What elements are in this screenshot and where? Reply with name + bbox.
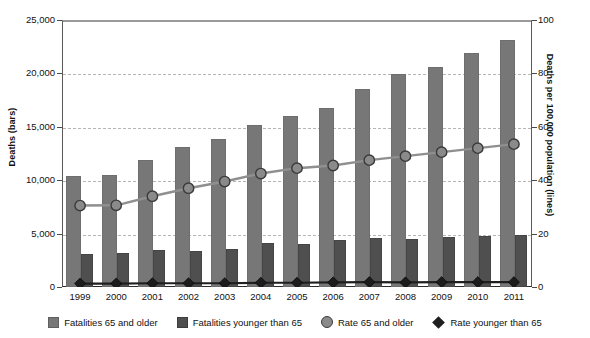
x-tick-label: 2010	[458, 291, 498, 302]
y-tick-label-left: 15,000	[0, 121, 55, 132]
y-tick-label-left: 10,000	[0, 174, 55, 185]
legend-swatch-square-icon	[177, 317, 188, 328]
legend-item[interactable]: Fatalities 65 and older	[48, 317, 157, 328]
y-axis-title-left: Deaths (bars)	[7, 95, 17, 179]
bar-fatalities-65-and-older	[355, 89, 370, 287]
bar-fatalities-younger-than-65	[190, 251, 202, 287]
bar-fatalities-65-and-older	[247, 125, 262, 287]
legend-item-label: Rate 65 and older	[338, 317, 414, 328]
x-tick-label: 2006	[313, 291, 353, 302]
y-tick-label-right: 0	[538, 281, 578, 292]
y-tick-mark-right	[532, 234, 537, 235]
x-tick-label: 2000	[96, 291, 136, 302]
bar-fatalities-65-and-older	[138, 160, 153, 287]
bar-fatalities-younger-than-65	[370, 238, 382, 287]
legend-item[interactable]: Rate 65 and older	[321, 316, 414, 328]
y-tick-label-right: 20	[538, 228, 578, 239]
bar-fatalities-65-and-older	[102, 175, 117, 287]
legend-swatch-circle-icon	[321, 316, 333, 328]
legend-item-label: Rate younger than 65	[450, 317, 541, 328]
legend-swatch-square-icon	[48, 317, 59, 328]
x-tick-label: 2004	[241, 291, 281, 302]
bar-fatalities-65-and-older	[319, 108, 334, 287]
bar-fatalities-younger-than-65	[262, 243, 274, 287]
chart-legend: Fatalities 65 and olderFatalities younge…	[0, 312, 590, 332]
bar-fatalities-65-and-older	[175, 147, 190, 287]
x-tick-label: 2009	[422, 291, 462, 302]
y-tick-mark-right	[532, 287, 537, 288]
legend-swatch-diamond-wrap	[432, 318, 445, 327]
legend-item[interactable]: Rate younger than 65	[432, 317, 541, 328]
bar-fatalities-65-and-older	[211, 139, 226, 287]
bar-fatalities-65-and-older	[428, 67, 443, 287]
chart-root: Deaths (bars) Deaths per 100,000 populat…	[0, 0, 590, 338]
y-tick-label-left: 0	[0, 281, 55, 292]
legend-item[interactable]: Fatalities younger than 65	[177, 317, 302, 328]
bar-fatalities-younger-than-65	[515, 235, 527, 287]
bar-fatalities-65-and-older	[391, 74, 406, 287]
y-tick-label-left: 20,000	[0, 67, 55, 78]
bar-fatalities-65-and-older	[500, 40, 515, 287]
y-tick-label-right: 40	[538, 174, 578, 185]
legend-item-label: Fatalities younger than 65	[193, 317, 302, 328]
x-tick-label: 2005	[277, 291, 317, 302]
y-tick-label-left: 5,000	[0, 228, 55, 239]
y-tick-mark-left	[57, 287, 62, 288]
bar-fatalities-younger-than-65	[298, 244, 310, 287]
bar-series-layer	[62, 20, 532, 287]
legend-item-label: Fatalities 65 and older	[64, 317, 157, 328]
bar-fatalities-65-and-older	[283, 116, 298, 287]
y-tick-mark-right	[532, 20, 537, 21]
y-tick-mark-right	[532, 180, 537, 181]
y-tick-label-right: 60	[538, 121, 578, 132]
bar-fatalities-younger-than-65	[443, 237, 455, 287]
x-tick-label: 1999	[60, 291, 100, 302]
x-tick-label: 2002	[169, 291, 209, 302]
x-tick-label: 2007	[349, 291, 389, 302]
y-tick-label-right: 100	[538, 14, 578, 25]
x-tick-label: 2011	[494, 291, 534, 302]
bar-fatalities-younger-than-65	[334, 240, 346, 287]
bar-fatalities-younger-than-65	[479, 236, 491, 287]
bar-fatalities-younger-than-65	[226, 249, 238, 287]
bar-fatalities-65-and-older	[66, 176, 81, 287]
y-tick-mark-right	[532, 127, 537, 128]
bar-fatalities-younger-than-65	[117, 253, 129, 287]
x-tick-label: 2001	[132, 291, 172, 302]
y-tick-label-left: 25,000	[0, 14, 55, 25]
legend-swatch-diamond-icon	[433, 316, 446, 329]
y-tick-mark-right	[532, 73, 537, 74]
bar-fatalities-younger-than-65	[81, 254, 93, 287]
y-tick-label-right: 80	[538, 67, 578, 78]
bar-fatalities-younger-than-65	[153, 250, 165, 287]
bar-fatalities-65-and-older	[464, 53, 479, 287]
x-tick-label: 2003	[205, 291, 245, 302]
bar-fatalities-younger-than-65	[406, 239, 418, 287]
x-tick-label: 2008	[385, 291, 425, 302]
